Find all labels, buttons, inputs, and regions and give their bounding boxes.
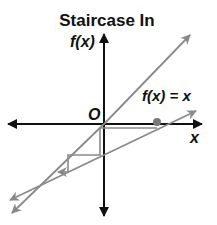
function-line bbox=[104, 111, 196, 155]
function-line-negative bbox=[10, 155, 104, 200]
x-axis-label: x bbox=[189, 129, 200, 146]
diagram-title: Staircase In bbox=[59, 11, 154, 30]
start-point-dot bbox=[153, 118, 161, 126]
line-label: f(x) = x bbox=[142, 87, 191, 104]
staircase-diagram: Staircase In f(x) O f(x) = x x bbox=[0, 0, 217, 225]
origin-label: O bbox=[88, 106, 101, 123]
y-axis-label: f(x) bbox=[70, 33, 95, 50]
identity-line bbox=[104, 35, 190, 124]
identity-line-negative bbox=[12, 124, 104, 213]
